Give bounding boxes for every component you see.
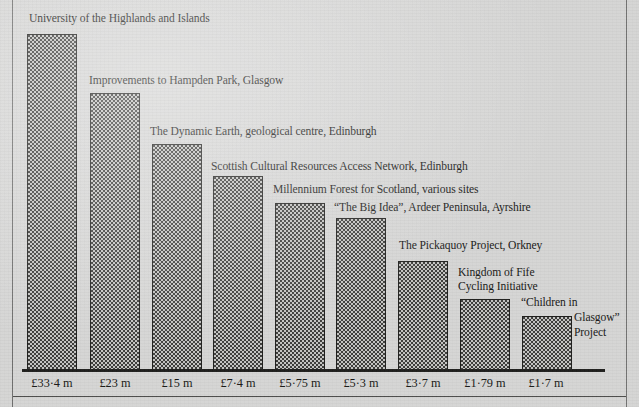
bar-label-9-line-2-wrap: Glasgow” [574,311,620,325]
bar-9 [522,316,572,370]
bar-5 [275,203,325,370]
bar-value-label-4: £7·4 m [208,376,268,391]
bar-label-6: “The Big Idea”, Ardeer Peninsula, Ayrshi… [334,201,531,215]
bar-label-1: University of the Highlands and Islands [29,12,210,26]
bar-1 [27,34,77,370]
bar-chart: University of the Highlands and Islands … [0,0,639,407]
bar-label-8-line-1: Kingdom of Fife [458,266,534,279]
page-frame-left-rule [12,0,13,407]
x-axis-baseline [22,369,605,372]
bar-label-7: The Pickaquoy Project, Orkney [399,239,542,253]
bar-label-2: Improvements to Hampden Park, Glasgow [89,74,283,88]
bar-label-9-line-2: Glasgow” [574,311,620,324]
bar-8 [460,299,510,370]
bar-label-6-line-1: “The Big Idea”, Ardeer Peninsula, Ayrshi… [334,201,531,214]
bar-label-8-line-2: Cycling Initiative [458,280,538,293]
bar-value-label-9: £1·7 m [515,376,577,391]
bar-value-label-5: £5·75 m [268,376,332,391]
bar-value-label-7: £3·7 m [393,376,453,391]
bar-value-label-6: £5·3 m [331,376,391,391]
bar-7 [398,261,448,370]
bar-label-1-line-1: University of the Highlands and Islands [29,12,210,25]
bar-label-4: Scottish Cultural Resources Access Netwo… [211,160,468,174]
bar-label-5-line-1: Millennium Forest for Scotland, various … [273,183,478,196]
bar-value-label-3: £15 m [147,376,207,391]
bar-label-5: Millennium Forest for Scotland, various … [273,183,478,197]
bar-label-3-line-1: The Dynamic Earth, geological centre, Ed… [150,125,377,138]
bar-label-3: The Dynamic Earth, geological centre, Ed… [150,125,377,139]
bar-value-label-8: £1·79 m [452,376,518,391]
page-frame-right-rule [626,0,627,407]
bar-6 [336,218,386,370]
bar-3 [152,144,202,370]
bar-label-7-line-1: The Pickaquoy Project, Orkney [399,239,542,252]
page-frame-bottom-rule [13,396,626,397]
bar-label-2-line-1: Improvements to Hampden Park, Glasgow [89,74,283,87]
bar-label-9-line-1: “Children in [521,296,577,309]
bar-4 [213,176,263,370]
bar-value-label-2: £23 m [85,376,145,391]
bar-label-4-line-1: Scottish Cultural Resources Access Netwo… [211,160,468,173]
bar-label-9-line-1-wrap: “Children in [521,296,577,310]
bar-label-9-line-3: Project [574,326,606,339]
bar-label-8: Kingdom of Fife Cycling Initiative [458,266,568,294]
bar-2 [90,93,140,370]
bar-label-9-line-3-wrap: Project [574,326,606,340]
bar-value-label-1: £33·4 m [22,376,82,391]
